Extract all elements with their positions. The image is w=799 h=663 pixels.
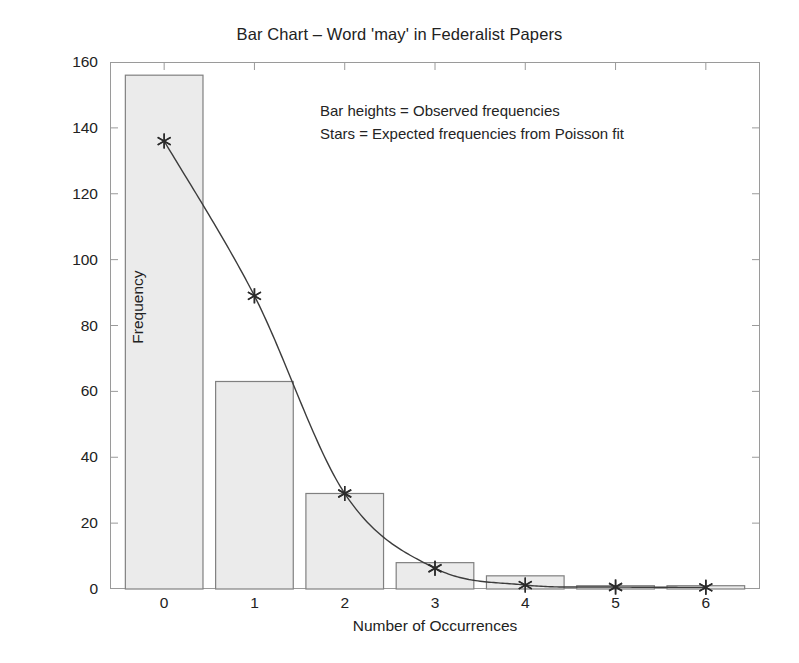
x-tick-label: 2 <box>325 594 365 612</box>
chart-title: Bar Chart – Word 'may' in Federalist Pap… <box>0 25 799 44</box>
y-tick-label: 60 <box>38 382 98 400</box>
x-tick-label: 0 <box>144 594 184 612</box>
y-tick-label: 0 <box>38 580 98 598</box>
plot-area: Bar heights = Observed frequencies Stars… <box>110 62 760 589</box>
y-tick-label: 140 <box>38 119 98 137</box>
y-tick-label: 100 <box>38 251 98 269</box>
x-tick-label: 5 <box>596 594 636 612</box>
y-tick-label: 160 <box>38 53 98 71</box>
bar <box>306 493 384 589</box>
chart-figure: Bar Chart – Word 'may' in Federalist Pap… <box>0 0 799 663</box>
y-tick-label: 80 <box>38 317 98 335</box>
expected-star-marker <box>248 288 261 303</box>
x-tick-label: 6 <box>686 594 726 612</box>
y-tick-label: 120 <box>38 185 98 203</box>
y-tick-label: 20 <box>38 514 98 532</box>
bar <box>216 381 294 589</box>
y-tick-label: 40 <box>38 448 98 466</box>
plot-canvas <box>110 62 760 589</box>
x-axis-label: Number of Occurrences <box>110 617 760 635</box>
x-tick-label: 1 <box>234 594 274 612</box>
x-tick-label: 3 <box>415 594 455 612</box>
x-tick-label: 4 <box>505 594 545 612</box>
y-axis-label: Frequency <box>129 217 147 397</box>
